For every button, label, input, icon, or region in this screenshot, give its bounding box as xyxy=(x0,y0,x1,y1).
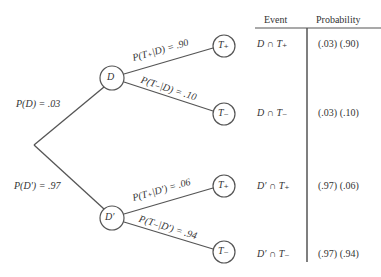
table-header-event: Event xyxy=(264,14,287,25)
table-header-probability: Probability xyxy=(316,14,360,25)
node-tplus-1-label: T₊ xyxy=(218,39,229,50)
table-row-2-probability: (.03) (.10) xyxy=(318,107,359,118)
table-row-3-event: D′ ∩ T₊ xyxy=(257,180,289,191)
node-d-label: D xyxy=(107,71,114,82)
table-row-1-event: D ∩ T₊ xyxy=(257,38,287,49)
branch-label-p-dprime: P(D′) = .97 xyxy=(14,180,60,191)
branch-root-to-dprime xyxy=(34,145,104,209)
branch-root-to-d xyxy=(34,87,104,145)
table-row-1-probability: (.03) (.90) xyxy=(318,38,359,49)
table-row-3-probability: (.97) (.06) xyxy=(318,180,359,191)
table-row-2-event: D ∩ T₋ xyxy=(257,107,287,118)
table-row-4-probability: (.97) (.94) xyxy=(318,248,359,259)
branch-label-p-d: P(D) = .03 xyxy=(16,98,60,109)
node-tplus-2-label: T₊ xyxy=(218,179,229,190)
node-dprime-label: D′ xyxy=(105,211,114,222)
node-tminus-1-label: T₋ xyxy=(218,107,229,118)
table-row-4-event: D′ ∩ T₋ xyxy=(257,248,289,259)
node-tminus-2-label: T₋ xyxy=(218,245,229,256)
